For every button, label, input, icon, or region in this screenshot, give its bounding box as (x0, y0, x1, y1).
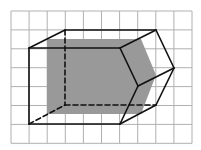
gray-shadow-pentagon (47, 39, 156, 114)
prism-diagram (0, 0, 201, 150)
